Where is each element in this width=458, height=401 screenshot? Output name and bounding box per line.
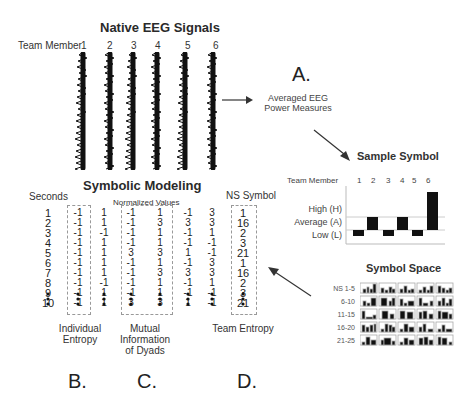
symbol-row <box>360 335 453 345</box>
eeg-member-3: 3 <box>131 40 137 51</box>
symbol-space-grid <box>360 282 458 348</box>
sample-member-4: 4 <box>400 176 404 185</box>
symbol-row-label: 6-10 <box>330 295 355 308</box>
seconds-label: Seconds <box>29 191 68 202</box>
symbol-row <box>360 309 453 319</box>
sample-member-6: 6 <box>426 176 430 185</box>
caption-line: of Dyads <box>115 345 175 356</box>
panel-a-letter: A. <box>292 63 311 86</box>
sample-member-label: Team Member <box>287 176 338 185</box>
panel-d-letter: D. <box>237 370 257 393</box>
team-entropy-caption: Team Entropy <box>208 323 278 334</box>
symbolic-modeling-title: Symbolic Modeling <box>83 178 201 193</box>
symbol-row-label: 21-25 <box>330 334 355 347</box>
symbol-row-label: 11-15 <box>330 308 355 321</box>
sample-member-1: 1 <box>357 176 361 185</box>
sample-member-5: 5 <box>412 176 416 185</box>
eeg-member-5: 5 <box>185 40 191 51</box>
arrow-up-left-icon <box>265 265 315 299</box>
eeg-member-2: 2 <box>107 40 113 51</box>
caption-line: Information <box>115 334 175 345</box>
caption-line: Mutual <box>115 323 175 334</box>
avg-eeg-label: Averaged EEG Power Measures <box>258 93 338 113</box>
continuation-dots <box>40 292 260 308</box>
avg-eeg-line2: Power Measures <box>258 103 338 113</box>
symbol-row <box>360 283 453 293</box>
sample-member-2: 2 <box>371 176 375 185</box>
arrow-right-icon <box>222 95 254 105</box>
eeg-member-label: Team Member <box>18 40 82 51</box>
panel-c-letter: C. <box>137 370 157 393</box>
symbol-row-label: NS 1-5 <box>330 282 355 295</box>
eeg-member-6: 6 <box>213 40 219 51</box>
eeg-traces <box>60 52 240 170</box>
level-average-label: Average (A) <box>282 217 342 227</box>
sample-member-3: 3 <box>386 176 390 185</box>
individual-entropy-caption: Individual Entropy <box>50 323 110 345</box>
symbol-row <box>360 296 453 306</box>
eeg-member-1: 1 <box>81 40 87 51</box>
arrow-down-right-icon <box>312 128 352 162</box>
eeg-member-4: 4 <box>155 40 161 51</box>
symbol-row <box>360 322 453 332</box>
eeg-title: Native EEG Signals <box>100 20 220 35</box>
panel-b-letter: B. <box>68 370 87 393</box>
level-low-label: Low (L) <box>302 230 342 240</box>
caption-line: Individual <box>50 323 110 334</box>
ns-symbol-label: NS Symbol <box>226 190 276 201</box>
symbol-space-row-labels: NS 1-5 6-10 11-15 16-20 21-25 <box>330 282 355 347</box>
level-high-label: High (H) <box>302 204 342 214</box>
avg-eeg-line1: Averaged EEG <box>258 93 338 103</box>
sample-symbol-chart <box>345 186 445 246</box>
caption-line: Entropy <box>50 334 110 345</box>
sample-symbol-title: Sample Symbol <box>357 150 439 162</box>
symbol-space-title: Symbol Space <box>366 262 441 274</box>
symbol-row-label: 16-20 <box>330 321 355 334</box>
mutual-information-caption: Mutual Information of Dyads <box>115 323 175 356</box>
